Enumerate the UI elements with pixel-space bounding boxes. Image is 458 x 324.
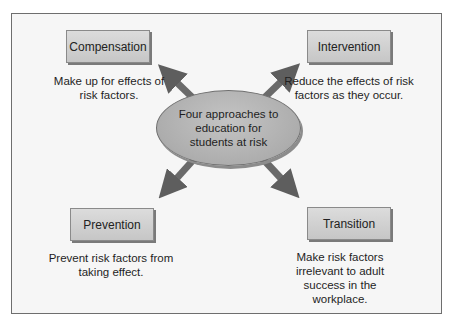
node-title: Compensation	[69, 40, 146, 54]
center-ellipse: Four approaches to education for student…	[156, 90, 301, 166]
node-title: Prevention	[83, 218, 140, 232]
node-transition: Transition	[307, 207, 391, 240]
node-compensation: Compensation	[66, 30, 150, 63]
center-label: Four approaches to education for student…	[175, 107, 282, 149]
node-description: Make up for effects of risk factors.	[44, 74, 174, 102]
arrow-to-prevention	[168, 158, 195, 188]
node-prevention: Prevention	[70, 208, 154, 241]
node-description: Prevent risk factors from taking effect.	[46, 251, 176, 279]
arrow-to-transition	[262, 158, 290, 188]
node-description: Make risk factors irrelevant to adult su…	[290, 250, 390, 306]
node-intervention: Intervention	[307, 30, 391, 63]
node-description: Reduce the effects of risk factors as th…	[284, 74, 414, 102]
node-title: Intervention	[318, 40, 381, 54]
node-title: Transition	[323, 217, 375, 231]
